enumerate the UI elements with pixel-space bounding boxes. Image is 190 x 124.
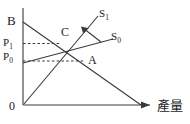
label-price-high: P1	[3, 37, 13, 51]
label-demand-intercept: B	[7, 14, 16, 27]
label-point-c: C	[61, 26, 69, 38]
label-point-a: A	[88, 54, 97, 66]
label-supply-new: S1	[99, 8, 109, 22]
label-price-high-subscript: 1	[9, 42, 13, 51]
x-axis-arrowhead-icon	[141, 102, 150, 109]
label-price-low: P0	[3, 51, 13, 65]
label-origin: 0	[9, 100, 15, 112]
diagram-container: B P1 P0 0 C A S1 S0 產量	[0, 0, 190, 124]
label-price-low-subscript: 0	[9, 56, 13, 65]
label-supply-new-subscript: 1	[105, 13, 109, 22]
supply-shift-arrow	[81, 27, 101, 43]
label-supply-old-subscript: 0	[117, 36, 121, 45]
label-x-axis: 產量	[157, 99, 183, 112]
label-supply-old: S0	[111, 31, 121, 45]
